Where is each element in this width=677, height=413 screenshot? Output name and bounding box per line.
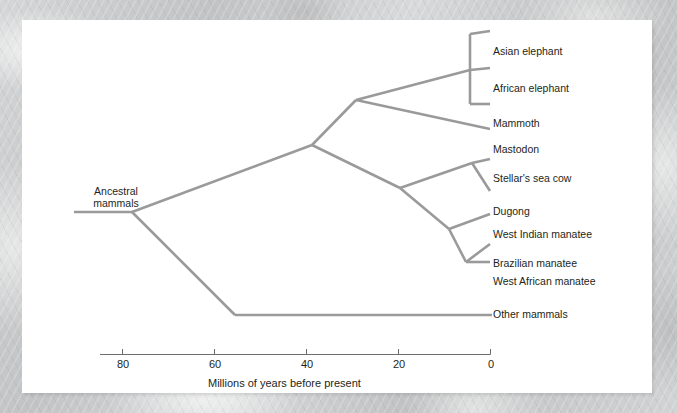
branch-trichechidae-to-split <box>449 229 466 262</box>
branch-brazilian-manatee <box>466 244 490 262</box>
branch-sirenia-to-dugongidae <box>400 163 472 188</box>
axis-title: Millions of years before present <box>208 377 361 389</box>
branch-root-to-other-mammals <box>132 212 235 315</box>
branch-paenungulata-to-proboscidea <box>312 100 356 145</box>
branch-dugong <box>472 163 490 191</box>
branch-african-elephant <box>470 68 490 70</box>
branch-sirenia-to-trichechidae <box>400 188 449 229</box>
leaf-label-stellars-sea-cow: Stellar's sea cow <box>493 173 571 184</box>
leaf-label-african-elephant: African elephant <box>493 83 569 94</box>
branch-west-indian-manatee <box>449 214 490 229</box>
leaf-label-other-mammals: Other mammals <box>493 309 568 320</box>
tree-branches <box>74 31 492 315</box>
branch-paenungulata-to-sirenia <box>312 145 400 188</box>
leaf-label-dugong: Dugong <box>493 206 530 217</box>
axis-tick-label-20: 20 <box>384 358 414 370</box>
branch-stellars-sea-cow <box>472 159 490 163</box>
axis-tick-label-40: 40 <box>292 358 322 370</box>
leaf-label-west-indian-manatee: West Indian manatee <box>493 229 592 240</box>
axis-tick-label-60: 60 <box>200 358 230 370</box>
root-label: Ancestralmammals <box>79 186 153 209</box>
leaf-label-west-african-manatee: West African manatee <box>493 276 596 287</box>
leaf-label-mastodon: Mastodon <box>493 144 539 155</box>
branch-proboscidea-to-elephantidae <box>356 70 470 100</box>
axis-tick-label-80: 80 <box>108 358 138 370</box>
leaf-label-mammoth: Mammoth <box>493 118 540 129</box>
time-axis <box>100 349 491 355</box>
branch-mastodon <box>356 100 490 129</box>
branch-root-to-paenungulata <box>132 145 312 212</box>
leaf-label-asian-elephant: Asian elephant <box>493 46 562 57</box>
root-label-line1: Ancestral <box>94 185 138 197</box>
figure-panel: Asian elephant African elephant Mammoth … <box>22 20 652 393</box>
root-label-line2: mammals <box>93 197 139 209</box>
axis-tick-label-0: 0 <box>476 358 506 370</box>
branch-asian-elephant <box>470 31 490 34</box>
leaf-label-brazilian-manatee: Brazilian manatee <box>493 258 577 269</box>
